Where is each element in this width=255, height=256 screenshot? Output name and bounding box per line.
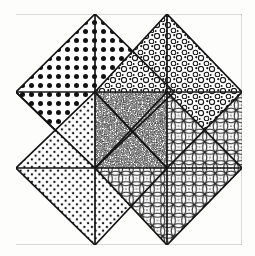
pattern-plate-svg bbox=[0, 0, 255, 256]
pattern-plate-figure bbox=[0, 0, 255, 256]
